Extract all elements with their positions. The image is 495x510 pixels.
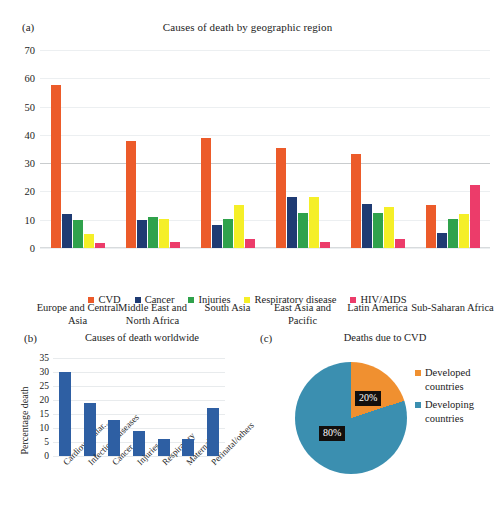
legend-item[interactable]: Respiratory disease	[244, 294, 336, 305]
y-axis-tick-label: 15	[40, 409, 50, 419]
y-axis-tick-label: 70	[25, 45, 36, 56]
legend-swatch-icon	[88, 297, 94, 303]
bar[interactable]	[373, 213, 383, 248]
bar[interactable]	[62, 214, 72, 248]
pie-slice-value-developing: 80%	[319, 426, 345, 441]
legend-item-label: Developedcountries	[425, 366, 470, 393]
y-axis-tick-label: 5	[44, 437, 49, 447]
bar[interactable]	[126, 141, 136, 248]
panel-b-y-axis-label: Percentage death	[17, 374, 31, 466]
panel-b-y-axis-label-text: Percentage death	[19, 386, 30, 454]
legend-item[interactable]: Cancer	[135, 294, 175, 305]
bar[interactable]	[351, 154, 361, 248]
bar[interactable]	[51, 85, 61, 248]
gridline	[53, 358, 225, 359]
bar[interactable]	[148, 217, 158, 248]
panel-c-label: (c)	[260, 332, 272, 344]
legend-item-label: Cancer	[145, 294, 175, 305]
bar[interactable]	[362, 204, 372, 248]
bar[interactable]	[207, 408, 219, 456]
legend-item[interactable]: Injuries	[188, 294, 230, 305]
bar[interactable]	[95, 243, 105, 248]
y-axis-tick-label: 35	[40, 353, 50, 363]
y-axis-tick-label: 10	[25, 214, 36, 225]
bar[interactable]	[437, 233, 447, 248]
bar[interactable]	[448, 219, 458, 248]
bar[interactable]	[234, 205, 244, 248]
bar[interactable]	[276, 148, 286, 248]
bar[interactable]	[137, 220, 147, 248]
bar[interactable]	[426, 205, 436, 248]
bar[interactable]	[159, 219, 169, 248]
y-axis-tick-label: 40	[25, 129, 36, 140]
y-axis-tick-label: 10	[40, 423, 50, 433]
bar[interactable]	[84, 403, 96, 456]
bar[interactable]	[459, 214, 469, 249]
bar-group	[415, 50, 490, 248]
pie-slice-value-developed: 20%	[355, 391, 381, 406]
y-axis-tick-label: 30	[25, 158, 36, 169]
legend-swatch-icon	[244, 297, 250, 303]
bar-group	[190, 50, 265, 248]
bar-group	[40, 50, 115, 248]
figure-container: (a) Causes of death by geographic region…	[0, 0, 495, 510]
gridline	[53, 400, 225, 401]
panel-a-plot-area: 010203040506070Europe and Central AsiaMi…	[40, 50, 490, 248]
bar-group	[340, 50, 415, 248]
legend-item-label: Injuries	[198, 294, 230, 305]
y-axis-tick-label: 50	[25, 101, 36, 112]
panel-c-pie-chart: (c) Deaths due to CVD Developedcountries…	[255, 322, 495, 510]
bar[interactable]	[59, 372, 71, 456]
panel-a-legend: CVDCancerInjuriesRespiratory diseaseHIV/…	[0, 294, 495, 305]
panel-a-title: Causes of death by geographic region	[0, 21, 495, 33]
panel-b-plot-area: 05101520253035Cardiovascular...Infectiou…	[53, 358, 225, 456]
panel-b-bar-chart: (b) Causes of death worldwide Percentage…	[0, 322, 255, 510]
bar[interactable]	[245, 239, 255, 248]
legend-item-label: HIV/AIDS	[360, 294, 406, 305]
y-axis-tick-label: 60	[25, 73, 36, 84]
legend-item[interactable]: Developingcountries	[415, 398, 474, 425]
panel-b-label: (b)	[24, 332, 37, 344]
y-axis-tick-label: 0	[30, 243, 35, 254]
bar[interactable]	[73, 220, 83, 248]
panel-b-title: Causes of death worldwide	[52, 332, 232, 343]
legend-swatch-icon	[188, 297, 194, 303]
gridline	[53, 372, 225, 373]
bar[interactable]	[309, 197, 319, 248]
bar[interactable]	[84, 234, 94, 248]
y-axis-tick-label: 0	[44, 451, 49, 461]
panel-c-legend: DevelopedcountriesDevelopingcountries	[415, 366, 474, 430]
gridline	[53, 428, 225, 429]
y-axis-tick-label: 25	[40, 381, 50, 391]
legend-swatch-icon	[415, 370, 421, 376]
bar[interactable]	[320, 242, 330, 248]
legend-swatch-icon	[415, 402, 421, 408]
bar-group	[265, 50, 340, 248]
legend-item-label: CVD	[98, 294, 120, 305]
gridline	[53, 386, 225, 387]
y-axis-tick-label: 20	[40, 395, 50, 405]
panel-c-title: Deaths due to CVD	[290, 332, 480, 343]
bar[interactable]	[201, 138, 211, 248]
legend-item[interactable]: HIV/AIDS	[350, 294, 406, 305]
bar[interactable]	[395, 239, 405, 248]
bar[interactable]	[212, 225, 222, 248]
panel-a-grouped-bar-chart: (a) Causes of death by geographic region…	[0, 0, 495, 318]
bar[interactable]	[298, 213, 308, 248]
pie-chart-graphic	[295, 362, 407, 474]
legend-swatch-icon	[350, 297, 356, 303]
gridline	[53, 414, 225, 415]
gridline	[40, 248, 490, 249]
legend-item-label: Respiratory disease	[254, 294, 336, 305]
bar[interactable]	[384, 207, 394, 248]
bar-group	[115, 50, 190, 248]
bar[interactable]	[470, 185, 480, 248]
bar[interactable]	[287, 197, 297, 248]
bar[interactable]	[170, 242, 180, 248]
legend-swatch-icon	[135, 297, 141, 303]
y-axis-tick-label: 30	[40, 367, 50, 377]
legend-item[interactable]: Developedcountries	[415, 366, 474, 393]
legend-item-label: Developingcountries	[425, 398, 474, 425]
bar[interactable]	[223, 219, 233, 248]
legend-item[interactable]: CVD	[88, 294, 120, 305]
